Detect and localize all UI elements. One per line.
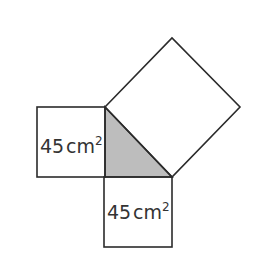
area-exponent: 2 [95,134,103,148]
bottom-square-area-label: 45 cm2 [107,203,170,222]
area-value: 45 [40,135,64,157]
area-unit: cm [66,135,95,157]
area-value: 45 [107,201,131,223]
area-exponent: 2 [162,200,170,214]
left-square-area-label: 45 cm2 [40,137,103,156]
area-unit: cm [133,201,162,223]
